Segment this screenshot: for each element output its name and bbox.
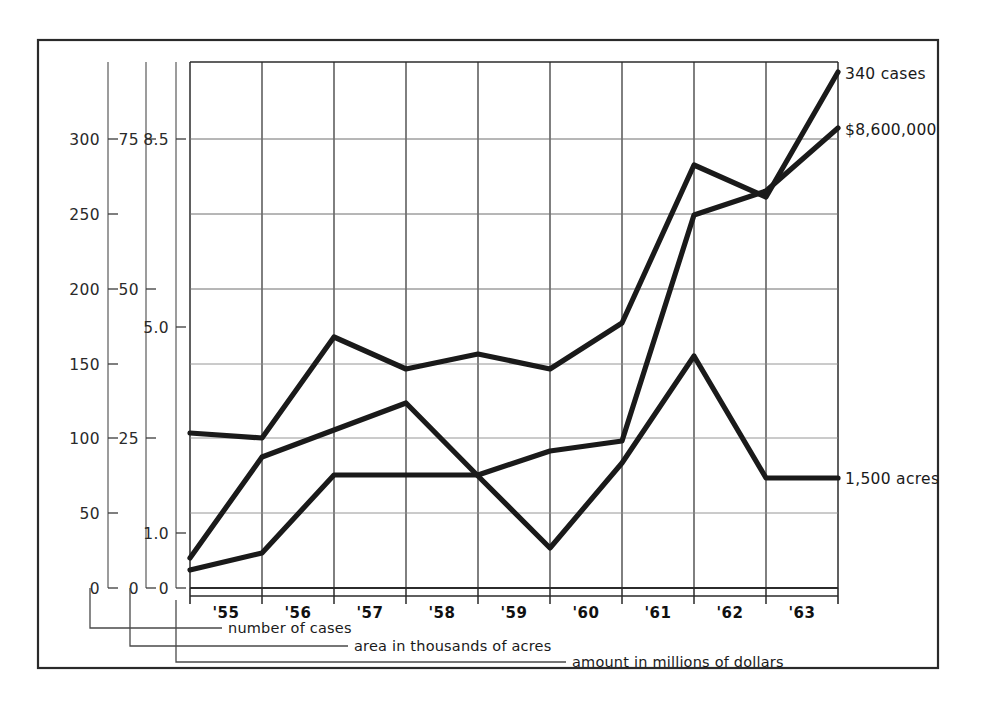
axis2-caption: area in thousands of acres <box>354 638 551 654</box>
axis2-label-75: 75 <box>118 131 139 149</box>
end-label-cases: 340 cases <box>845 65 926 83</box>
end-label-acres: 1,500 acres <box>845 470 939 488</box>
x-label-58: '58 <box>429 604 456 622</box>
chart-page: 300 250 200 150 100 50 0 number of cases… <box>0 0 981 709</box>
x-label-63: '63 <box>789 604 816 622</box>
axis3-label-0: 0 <box>159 580 169 598</box>
axis1-label-150: 150 <box>69 356 100 374</box>
chart-canvas: 300 250 200 150 100 50 0 number of cases… <box>0 0 981 709</box>
axis1-label-50: 50 <box>79 505 100 523</box>
x-label-59: '59 <box>501 604 528 622</box>
axis1-label-300: 300 <box>69 131 100 149</box>
x-label-61: '61 <box>645 604 672 622</box>
axis1-label-100: 100 <box>69 430 100 448</box>
x-label-60: '60 <box>573 604 600 622</box>
x-label-62: '62 <box>717 604 744 622</box>
end-label-dollars: $8,600,000 <box>845 121 937 139</box>
x-label-56: '56 <box>285 604 312 622</box>
axis1-caption: number of cases <box>228 620 352 636</box>
axis3-label-85: 8.5 <box>143 131 169 149</box>
axis3-label-10: 1.0 <box>143 525 169 543</box>
axis1-label-200: 200 <box>69 281 100 299</box>
axis3-label-50: 5.0 <box>143 319 169 337</box>
axis1-label-0: 0 <box>90 580 100 598</box>
axis2-label-50: 50 <box>118 281 139 299</box>
axis3-caption: amount in millions of dollars <box>572 654 784 670</box>
x-label-55: '55 <box>213 604 240 622</box>
x-label-57: '57 <box>357 604 384 622</box>
axis1-label-250: 250 <box>69 206 100 224</box>
axis2-label-25: 25 <box>118 430 139 448</box>
